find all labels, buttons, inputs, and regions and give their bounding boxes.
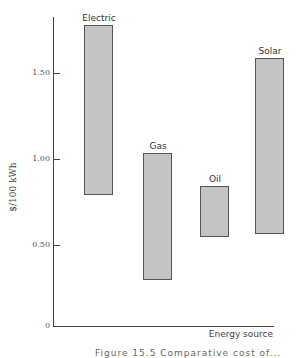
bar-electric: [84, 25, 113, 195]
y-tick-label: 1.50: [32, 68, 50, 77]
bar-gas: [143, 153, 172, 280]
y-tick: [54, 73, 60, 74]
y-tick-label: 1.00: [32, 154, 50, 163]
bar-label-gas: Gas: [136, 141, 180, 151]
bar-oil: [200, 186, 229, 237]
bar-label-solar: Solar: [248, 46, 292, 56]
x-axis-label: Energy source: [209, 329, 273, 339]
y-tick: [54, 245, 60, 246]
y-axis-line: [53, 17, 54, 327]
figure-caption: Figure 15.5 Comparative cost of...: [95, 348, 281, 358]
x-axis-line: [53, 326, 274, 327]
y-tick-label: 0: [45, 321, 50, 330]
bar-label-oil: Oil: [193, 174, 237, 184]
y-axis-label: $/100 kWh: [8, 152, 18, 222]
y-tick-label: 0.50: [32, 240, 50, 249]
y-tick: [54, 159, 60, 160]
bar-solar: [255, 58, 284, 234]
bar-label-electric: Electric: [77, 13, 121, 23]
